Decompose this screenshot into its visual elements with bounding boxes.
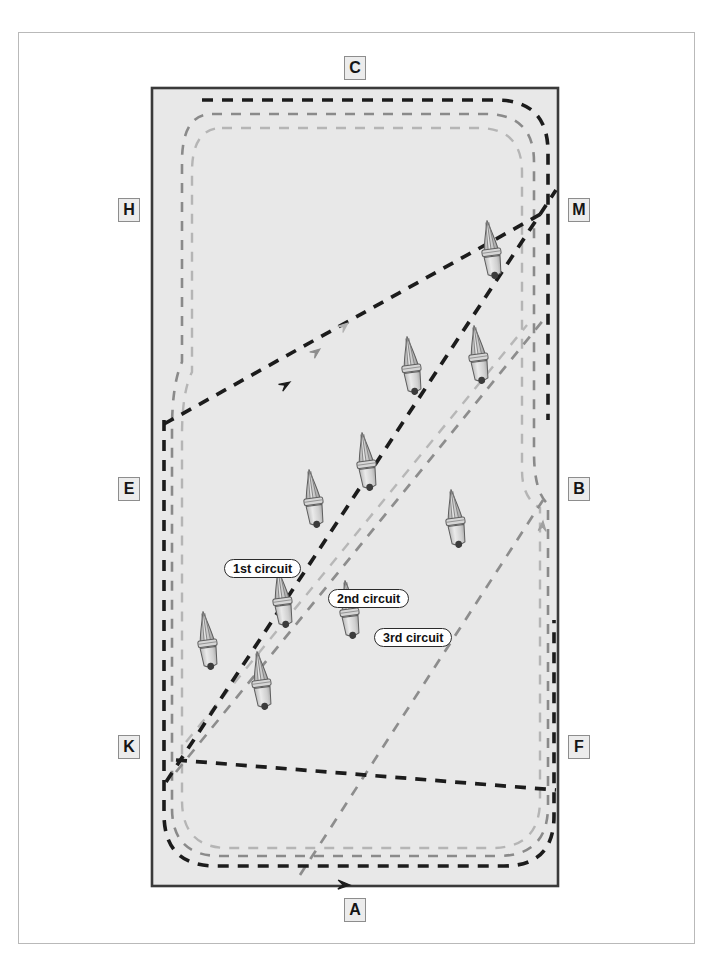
arena-marker-a: A [344,898,366,922]
arena-marker-c: C [344,56,366,80]
arena-marker-b: B [568,477,590,501]
arena-marker-f: F [568,735,590,759]
arena-diagram-svg [0,0,722,969]
arena-marker-e: E [118,477,140,501]
arena-marker-m: M [568,198,590,222]
arena-marker-k: K [118,735,140,759]
page-canvas: C A H E K M B F 1st circuit 2nd circuit … [0,0,722,969]
circuit-label-3: 3rd circuit [374,628,452,647]
circuit-label-1: 1st circuit [224,559,301,578]
arena-rectangle [152,88,558,886]
circuit-label-2: 2nd circuit [328,589,409,608]
arena-marker-h: H [118,198,140,222]
